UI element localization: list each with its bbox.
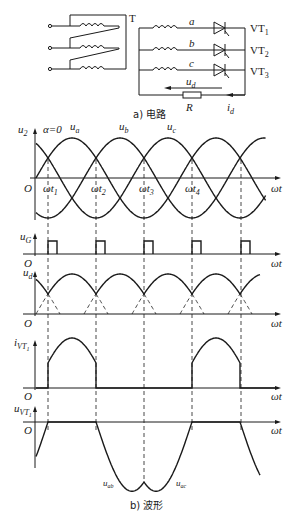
thyristor-icon xyxy=(214,22,245,78)
svg-text:ωt1: ωt1 xyxy=(43,182,58,197)
terminal-icon xyxy=(48,67,51,70)
svg-text:u2: u2 xyxy=(18,123,28,138)
svg-text:ωt: ωt xyxy=(271,390,283,402)
svg-text:uG: uG xyxy=(20,230,32,245)
secondary-coil-icon xyxy=(153,26,214,71)
alpha-label: α=0 xyxy=(43,123,62,135)
svg-text:iVT1: iVT1 xyxy=(14,336,29,352)
svg-text:O: O xyxy=(24,317,32,329)
svg-text:O: O xyxy=(24,390,32,402)
primary-coil-icon xyxy=(78,24,126,70)
svg-text:ωt4: ωt4 xyxy=(185,182,200,197)
panel-u2: u2 α=0 ua ub uc O ωt1 ωt2 ωt3 ωt4 ωt xyxy=(18,120,283,220)
svg-text:O: O xyxy=(24,182,32,194)
svg-text:ωt: ωt xyxy=(271,424,283,436)
transformer-label: T xyxy=(129,12,136,24)
svg-text:ωt: ωt xyxy=(271,182,283,194)
svg-text:ua: ua xyxy=(70,120,80,135)
axis-arrow-icon xyxy=(33,128,37,134)
thyristor-label-vt3: VT3 xyxy=(250,65,269,80)
svg-text:ωt2: ωt2 xyxy=(91,182,106,197)
panel-uvt1: uVT1 O ωt uab uac xyxy=(14,402,283,491)
output-current-label: id xyxy=(227,101,235,116)
phase-label-c: c xyxy=(189,57,194,69)
terminal-icon xyxy=(48,24,51,27)
terminal-icon xyxy=(48,46,51,49)
svg-text:uac: uac xyxy=(176,478,187,489)
svg-text:uc: uc xyxy=(167,120,177,135)
svg-text:ub: ub xyxy=(119,120,129,135)
thyristor-label-vt2: VT2 xyxy=(250,44,269,59)
circuit-caption: a) 电路 xyxy=(133,108,166,120)
rectifier-figure: T a b c VT1 VT2 VT3 ud R id a) 电路 xyxy=(0,0,299,522)
resistor-icon xyxy=(183,92,201,98)
waveform-caption: b) 波形 xyxy=(130,499,163,511)
circuit-diagram: T a b c VT1 VT2 VT3 ud R id a) 电路 xyxy=(48,12,268,120)
curve-ivt1 xyxy=(36,338,276,388)
phase-label-b: b xyxy=(189,37,195,49)
phase-label-a: a xyxy=(189,15,195,27)
waveforms: u2 α=0 ua ub uc O ωt1 ωt2 ωt3 ωt4 ωt uG … xyxy=(14,120,283,511)
id-arrow-icon xyxy=(226,93,233,97)
svg-text:ωt: ωt xyxy=(271,257,283,269)
svg-text:ωt3: ωt3 xyxy=(139,182,154,197)
load-label: R xyxy=(185,101,193,113)
axis-arrow-icon xyxy=(275,176,281,180)
commutation-markers xyxy=(48,160,241,482)
svg-text:O: O xyxy=(24,424,32,436)
curve-uvt1 xyxy=(36,422,260,491)
curve-ud xyxy=(36,274,260,294)
thyristor-label-vt1: VT1 xyxy=(250,22,269,37)
svg-text:uab: uab xyxy=(103,478,114,489)
panel-ivt1: iVT1 O ωt xyxy=(14,336,283,402)
svg-text:uVT1: uVT1 xyxy=(14,402,32,418)
panel-ud: ud O ωt xyxy=(23,266,283,329)
panel-ug: uG O ωt xyxy=(20,230,283,269)
svg-text:ωt: ωt xyxy=(271,317,283,329)
